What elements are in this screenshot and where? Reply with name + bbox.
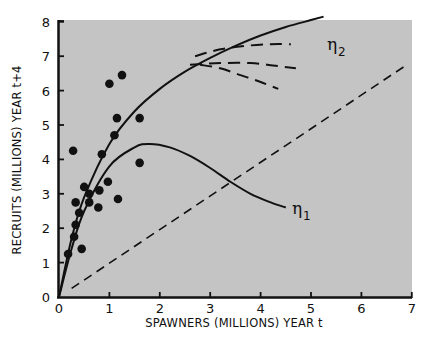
data-point <box>71 198 80 207</box>
data-point <box>75 208 84 217</box>
x-tick-label: 4 <box>256 301 264 316</box>
data-point <box>135 159 144 168</box>
data-point <box>94 203 103 212</box>
data-point <box>69 147 78 156</box>
data-point <box>95 186 104 195</box>
data-point <box>104 177 113 186</box>
data-point <box>110 131 119 140</box>
y-tick-label: 1 <box>42 256 50 271</box>
svg-text:η: η <box>292 198 302 218</box>
plot-area <box>58 20 412 297</box>
data-point <box>114 195 123 204</box>
y-tick-label: 4 <box>42 152 50 167</box>
data-point <box>85 190 94 199</box>
stock-recruitment-chart: 01234567012345678 SPAWNERS (MILLIONS) YE… <box>0 0 435 345</box>
y-tick-label: 0 <box>42 290 50 305</box>
data-point <box>118 71 127 80</box>
data-point <box>70 233 79 242</box>
y-tick-label: 8 <box>42 15 50 30</box>
x-tick-label: 0 <box>55 301 63 316</box>
x-tick-label: 5 <box>307 301 315 316</box>
data-point <box>98 150 107 159</box>
y-tick-label: 6 <box>42 84 50 99</box>
data-point <box>64 250 73 259</box>
y-tick-label: 3 <box>42 187 50 202</box>
x-tick-label: 7 <box>408 301 416 316</box>
data-point <box>105 79 114 88</box>
y-axis-label: RECRUITS (MILLIONS) YEAR t+4 <box>10 65 24 254</box>
x-tick-label: 6 <box>357 301 365 316</box>
data-point <box>71 220 80 229</box>
svg-text:η: η <box>327 34 337 54</box>
y-tick-label: 7 <box>42 49 50 64</box>
x-tick-label: 2 <box>156 301 164 316</box>
data-point <box>135 114 144 123</box>
y-tick-label: 2 <box>42 221 50 236</box>
svg-text:2: 2 <box>338 45 346 59</box>
x-tick-label: 3 <box>206 301 214 316</box>
data-point <box>113 114 122 123</box>
x-tick-label: 1 <box>105 301 113 316</box>
svg-text:1: 1 <box>303 209 311 223</box>
data-point <box>85 198 94 207</box>
data-point <box>77 245 86 254</box>
data-point <box>80 183 89 192</box>
y-tick-label: 5 <box>42 118 50 133</box>
x-axis-label: SPAWNERS (MILLIONS) YEAR t <box>145 316 323 330</box>
